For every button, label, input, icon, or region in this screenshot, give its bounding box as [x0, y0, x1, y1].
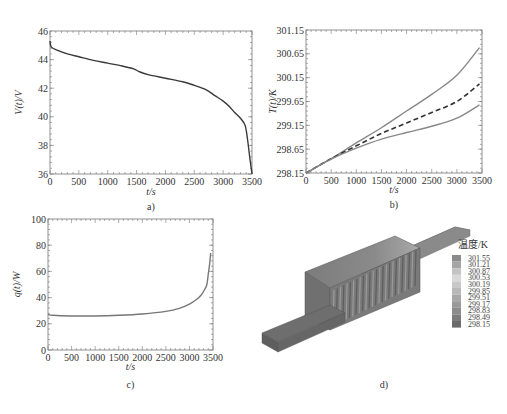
x-tick-label: 3000 — [213, 176, 233, 187]
x-axis-label: t/s — [126, 361, 136, 372]
chart-c-heat: 0500100015002000250030003500020406080100… — [11, 214, 223, 392]
x-tick-label: 1000 — [85, 352, 105, 363]
y-tick-label: 299.65 — [277, 96, 305, 107]
chart-d-3d-contour: 温度/K301.55301.21300.87300.53300.19299.85… — [262, 227, 490, 391]
x-tick-label: 3500 — [242, 176, 262, 187]
chart-a-voltage: 0500100015002000250030003500363840424446… — [13, 26, 262, 214]
subfigure-caption: d) — [380, 379, 388, 391]
y-tick-label: 40 — [38, 111, 48, 122]
plot-frame — [50, 31, 252, 174]
x-tick-label: 0 — [48, 176, 53, 187]
x-tick-label: 1000 — [98, 176, 118, 187]
y-tick-label: 46 — [38, 26, 48, 37]
legend-swatch — [452, 281, 461, 288]
subfigure-caption: c) — [127, 379, 135, 391]
series-line-lower — [306, 105, 479, 173]
y-tick-label: 299.15 — [277, 120, 305, 131]
x-axis-label: t/s — [146, 186, 156, 197]
x-tick-label: 2500 — [156, 352, 176, 363]
legend-swatch — [452, 275, 461, 282]
subfigure-caption: a) — [147, 201, 155, 213]
series-line-mean — [306, 84, 479, 173]
y-tick-label: 38 — [38, 140, 48, 151]
y-axis-label: q(t)/W — [11, 270, 23, 297]
x-tick-label: 2000 — [155, 176, 175, 187]
x-tick-label: 1000 — [346, 175, 366, 186]
plot-frame — [306, 30, 482, 173]
legend-swatch — [452, 301, 461, 308]
subfigure-caption: b) — [390, 199, 398, 211]
x-tick-label: 3500 — [203, 352, 223, 363]
y-tick-label: 60 — [36, 266, 46, 277]
x-tick-label: 2000 — [397, 175, 417, 186]
legend-title: 温度/K — [458, 238, 489, 250]
y-tick-label: 42 — [38, 83, 48, 94]
x-tick-label: 500 — [71, 176, 86, 187]
x-tick-label: 0 — [304, 175, 309, 186]
y-tick-label: 0 — [41, 345, 46, 356]
y-axis-label: T(t)/K — [267, 88, 279, 114]
y-tick-label: 301.15 — [277, 25, 305, 36]
x-tick-label: 0 — [46, 352, 51, 363]
x-tick-label: 1500 — [127, 176, 147, 187]
y-tick-label: 298.65 — [277, 144, 305, 155]
figure: 0500100015002000250030003500363840424446… — [0, 0, 507, 414]
legend-swatch — [452, 314, 461, 321]
y-tick-label: 40 — [36, 292, 46, 303]
x-tick-label: 3000 — [447, 175, 467, 186]
legend-swatch — [452, 295, 461, 302]
chart-b-temperature: 0500100015002000250030003500298.15298.65… — [267, 25, 492, 212]
legend-swatch — [452, 308, 461, 315]
legend-swatch — [452, 268, 461, 275]
y-tick-label: 300.65 — [277, 48, 305, 59]
x-tick-label: 500 — [64, 352, 79, 363]
series-line-vt — [50, 41, 252, 174]
legend-value: 298.15 — [468, 320, 490, 329]
x-tick-label: 3500 — [472, 175, 492, 186]
series-line-upper — [306, 48, 479, 173]
series-line-qt — [48, 253, 211, 316]
x-tick-label: 2500 — [184, 176, 204, 187]
legend-swatch — [452, 288, 461, 295]
x-tick-label: 500 — [324, 175, 339, 186]
y-tick-label: 44 — [38, 54, 48, 65]
x-tick-label: 3000 — [179, 352, 199, 363]
y-tick-label: 80 — [36, 240, 46, 251]
plot-frame — [48, 219, 213, 350]
y-axis-label: V(t)/V — [13, 88, 25, 114]
y-tick-label: 100 — [31, 214, 46, 225]
x-tick-label: 2000 — [132, 352, 152, 363]
x-axis-label: t/s — [389, 184, 399, 195]
y-tick-label: 298.15 — [277, 168, 305, 179]
legend-swatch — [452, 321, 461, 328]
y-tick-label: 20 — [36, 318, 46, 329]
legend-swatch — [452, 262, 461, 269]
legend-swatch — [452, 255, 461, 262]
x-tick-label: 2500 — [422, 175, 442, 186]
y-tick-label: 300.15 — [277, 72, 305, 83]
y-tick-label: 36 — [38, 169, 48, 180]
